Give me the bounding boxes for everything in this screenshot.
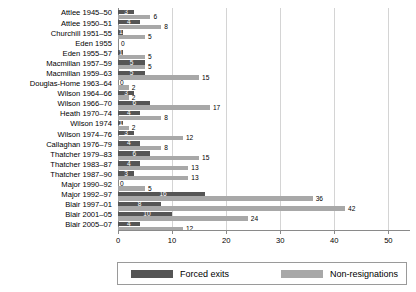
category-label-11: Wilson 1974 <box>0 119 112 128</box>
legend-label-non-resignations: Non-resignations <box>330 269 398 279</box>
x-axis-line <box>118 230 410 231</box>
category-label-14: Thatcher 1979–83 <box>0 150 112 159</box>
bar-group: 312 <box>118 131 410 141</box>
bar-group: 55 <box>118 60 410 70</box>
bar-group: 15 <box>118 30 410 40</box>
bar-group: 313 <box>118 171 410 181</box>
category-label-21: Blair 2005–07 <box>0 220 112 229</box>
bar-value-forced-exits: 8 <box>138 201 142 208</box>
category-label-20: Blair 2001–05 <box>0 210 112 219</box>
bar-non-resignations <box>118 196 313 200</box>
bar-value-forced-exits: 4 <box>127 161 131 168</box>
legend-item-forced-exits: Forced exits <box>131 263 229 284</box>
x-tick-20 <box>226 230 227 234</box>
bar-value-forced-exits: 3 <box>124 9 128 16</box>
legend-swatch-forced-exits <box>131 270 173 278</box>
x-tick-label-10: 10 <box>168 236 176 245</box>
x-tick-50 <box>388 230 389 234</box>
category-label-17: Major 1990–92 <box>0 180 112 189</box>
bar-chart: Attlee 1945–50Attlee 1950–51Churchill 19… <box>0 0 416 292</box>
category-label-13: Callaghan 1976–79 <box>0 140 112 149</box>
legend-label-forced-exits: Forced exits <box>180 269 229 279</box>
bar-group: 20 <box>118 80 410 90</box>
bar-group: 48 <box>118 111 410 121</box>
bar-group: 0 <box>118 40 410 50</box>
x-tick-30 <box>280 230 281 234</box>
category-label-0: Attlee 1945–50 <box>0 8 112 17</box>
bar-group: 515 <box>118 70 410 80</box>
bar-value-forced-exits: 6 <box>132 100 136 107</box>
bar-non-resignations <box>118 216 248 220</box>
x-tick-40 <box>334 230 335 234</box>
bar-value-forced-exits: 5 <box>130 70 134 77</box>
legend-item-non-resignations: Non-resignations <box>281 263 398 284</box>
category-label-8: Wilson 1964–66 <box>0 89 112 98</box>
bar-non-resignations <box>118 146 161 150</box>
x-tick-label-20: 20 <box>222 236 230 245</box>
category-label-2: Churchill 1951–55 <box>0 29 112 38</box>
x-tick-label-40: 40 <box>330 236 338 245</box>
bar-value-forced-exits: 1 <box>119 120 123 127</box>
category-label-7: Douglas-Home 1963–64 <box>0 79 112 88</box>
bar-group: 36 <box>118 10 410 20</box>
category-label-18: Major 1992–97 <box>0 190 112 199</box>
bar-value-forced-exits: 3 <box>124 130 128 137</box>
bar-value-forced-exits: 5 <box>130 60 134 67</box>
bar-value-forced-exits: 1 <box>119 29 123 36</box>
legend-swatch-non-resignations <box>281 270 323 278</box>
bar-non-resignations <box>118 206 345 210</box>
bar-value-forced-exits: 4 <box>127 140 131 147</box>
category-label-10: Heath 1970–74 <box>0 109 112 118</box>
category-label-5: Macmillan 1957–59 <box>0 59 112 68</box>
x-tick-10 <box>172 230 173 234</box>
bar-value-forced-exits: 4 <box>127 221 131 228</box>
bar-non-resignations <box>118 25 161 29</box>
x-tick-label-30: 30 <box>276 236 284 245</box>
category-label-3: Eden 1955 <box>0 39 112 48</box>
x-tick-0 <box>118 230 119 234</box>
bar-group: 48 <box>118 141 410 151</box>
bar-group: 15 <box>118 50 410 60</box>
plot-area: 3648150155551520326174812312486154133135… <box>118 8 410 230</box>
x-tick-label-0: 0 <box>116 236 120 245</box>
plot-wrapper: Attlee 1945–50Attlee 1950–51Churchill 19… <box>0 8 416 230</box>
category-label-16: Thatcher 1987–90 <box>0 170 112 179</box>
bar-group: 32 <box>118 90 410 100</box>
bar-group: 842 <box>118 201 410 211</box>
bar-non-resignations <box>118 15 150 19</box>
bar-value-forced-exits: 1 <box>119 50 123 57</box>
bar-group: 12 <box>118 121 410 131</box>
category-label-1: Attlee 1950–51 <box>0 19 112 28</box>
bar-value-forced-exits: 4 <box>127 110 131 117</box>
bar-non-resignations <box>118 116 161 120</box>
bar-group: 615 <box>118 151 410 161</box>
x-axis: 01020304050 <box>118 230 410 252</box>
bar-value-forced-exits: 6 <box>132 151 136 158</box>
chart-legend: Forced exits Non-resignations <box>117 262 407 285</box>
bar-non-resignations <box>118 176 188 180</box>
category-label-15: Thatcher 1983–87 <box>0 160 112 169</box>
bar-group: 617 <box>118 100 410 110</box>
x-tick-label-50: 50 <box>384 236 392 245</box>
bar-value-forced-exits: 16 <box>159 191 166 198</box>
bar-value-forced-exits: 4 <box>127 19 131 26</box>
bar-value-forced-exits: 0 <box>120 181 124 188</box>
bar-value-forced-exits: 3 <box>124 90 128 97</box>
category-label-12: Wilson 1974–76 <box>0 130 112 139</box>
bar-value-forced-exits: 0 <box>120 80 124 87</box>
bar-value-forced-exits: 3 <box>124 171 128 178</box>
category-axis-labels: Attlee 1945–50Attlee 1950–51Churchill 19… <box>0 8 116 230</box>
bar-group: 413 <box>118 161 410 171</box>
bar-group: 1024 <box>118 211 410 221</box>
category-label-6: Macmillan 1959–63 <box>0 69 112 78</box>
bar-value-forced-exits: 10 <box>143 211 150 218</box>
category-label-19: Blair 1997–01 <box>0 200 112 209</box>
category-label-9: Wilson 1966–70 <box>0 99 112 108</box>
category-label-4: Eden 1955–57 <box>0 49 112 58</box>
bar-group: 48 <box>118 20 410 30</box>
bar-value-zero: 0 <box>121 41 125 48</box>
bar-group: 1636 <box>118 191 410 201</box>
